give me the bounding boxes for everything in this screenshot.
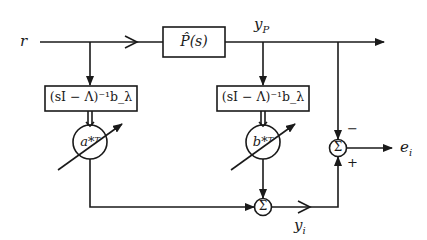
gain-a-label: a*ᵀ bbox=[73, 135, 107, 148]
identifier-output-line bbox=[272, 157, 339, 207]
input-label: r bbox=[20, 34, 27, 49]
plus-sign: + bbox=[347, 156, 358, 169]
error-label: ei bbox=[400, 140, 412, 158]
gain-b-label: b*ᵀ bbox=[246, 135, 280, 148]
plant-output-label: yP bbox=[254, 17, 269, 35]
plant-label: P̂(s) bbox=[163, 34, 225, 48]
bottom-line bbox=[90, 159, 254, 207]
minus-sign: − bbox=[347, 122, 358, 135]
right-filter-label: (sI − Λ)⁻¹b_λ bbox=[217, 91, 309, 104]
sum-symbol: Σ bbox=[332, 141, 344, 153]
left-filter-label: (sI − Λ)⁻¹b_λ bbox=[45, 91, 137, 104]
sum-symbol: Σ bbox=[257, 200, 269, 212]
identifier-output-label: yi bbox=[294, 218, 306, 236]
